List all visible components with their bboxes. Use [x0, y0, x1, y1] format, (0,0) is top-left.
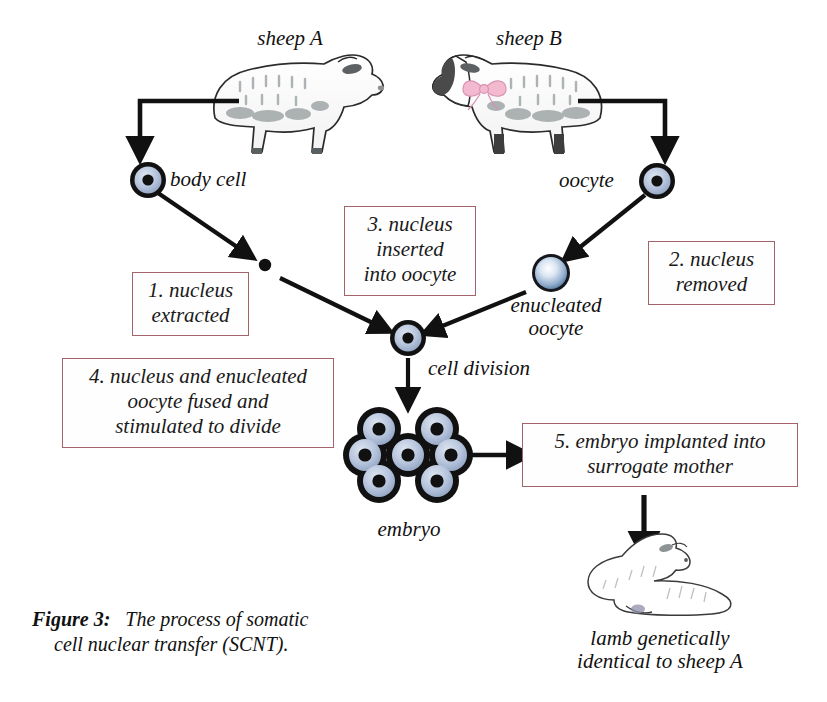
label-embryo: embryo: [378, 518, 441, 542]
extracted-nucleus-graphic: [259, 259, 271, 271]
step-2-line-2: removed: [659, 272, 764, 297]
label-oocyte: oocyte: [559, 169, 614, 193]
diagram-artwork: [0, 0, 827, 702]
step-1-line-2: extracted: [143, 303, 238, 328]
body-cell-graphic: [130, 162, 166, 198]
label-cell-division: cell division: [428, 357, 530, 381]
step-1-line-1: 1. nucleus: [143, 278, 238, 303]
step-3-line-1: 3. nucleus: [355, 212, 465, 237]
step-2-box: 2. nucleus removed: [648, 241, 775, 305]
scnt-diagram: sheep A sheep B body cell oocyte enuclea…: [0, 0, 827, 702]
step-4-box: 4. nucleus and enucleated oocyte fused a…: [62, 358, 334, 448]
step-3-line-3: into oocyte: [355, 262, 465, 287]
label-lamb-line2: identical to sheep A: [577, 650, 743, 674]
embryo-cluster-graphic: [343, 407, 473, 503]
step-5-line-1: 5. embryo implanted into: [533, 429, 787, 454]
oocyte-graphic: [639, 163, 675, 199]
label-body-cell: body cell: [170, 168, 246, 192]
step-5-line-2: surrogate mother: [533, 454, 787, 479]
arrow-sheepB-to-oocyte: [578, 101, 665, 146]
step-3-line-2: inserted: [355, 237, 465, 262]
step-4-line-1: 4. nucleus and enucleated: [73, 364, 323, 389]
label-enucleated-oocyte-line1: enucleated: [511, 294, 602, 318]
step-5-box: 5. embryo implanted into surrogate mothe…: [522, 423, 798, 487]
enucleated-oocyte-graphic: [532, 254, 570, 292]
step-3-box: 3. nucleus inserted into oocyte: [344, 206, 476, 296]
label-sheep-b: sheep B: [496, 27, 562, 51]
fused-cell-graphic: [390, 320, 426, 356]
arrow-sheepA-to-bodycell: [140, 101, 239, 146]
arrow-nucleus-extracted: [158, 193, 243, 251]
step-4-line-3: stimulated to divide: [73, 414, 323, 439]
sheep-b-illustration: [433, 55, 602, 154]
arrow-nucleus-removed: [574, 195, 645, 252]
bow-decoration: [463, 81, 506, 110]
label-sheep-a: sheep A: [257, 27, 323, 51]
figure-caption-line2: cell nuclear transfer (SCNT).: [32, 632, 392, 657]
figure-caption-text: The process of somatic: [125, 608, 308, 630]
step-2-line-1: 2. nucleus: [659, 247, 764, 272]
figure-caption-label: Figure 3:: [32, 608, 110, 630]
sheep-a-illustration: [214, 55, 384, 154]
label-lamb-line1: lamb genetically: [590, 627, 729, 651]
step-4-line-2: oocyte fused and: [73, 389, 323, 414]
figure-caption: Figure 3: The process of somatic cell nu…: [32, 607, 392, 657]
step-1-box: 1. nucleus extracted: [132, 272, 249, 336]
label-enucleated-oocyte-line2: oocyte: [529, 317, 584, 341]
lamb-illustration: [588, 534, 731, 615]
